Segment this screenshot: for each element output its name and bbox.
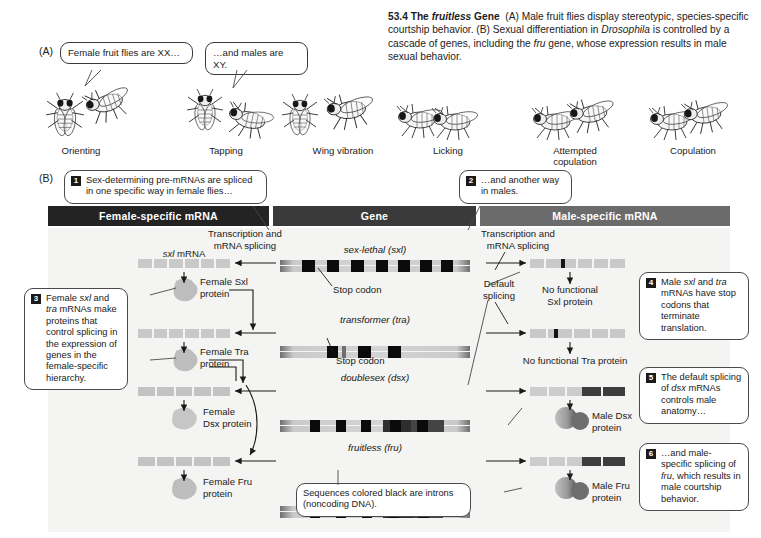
label-male-dsx-protein-l1: Male Dsx bbox=[592, 410, 632, 421]
bubble-male-xy-text: …and males are XY. bbox=[213, 47, 283, 70]
label-no-functional-sxl-l1: No functional bbox=[542, 284, 598, 295]
callout-3-text: Female sxl and tra mRNAs make proteins t… bbox=[46, 293, 121, 384]
protein-female-tra bbox=[174, 348, 198, 371]
label-female-tra-protein-l2: protein bbox=[200, 358, 229, 369]
label-male-dsx-protein-l2: protein bbox=[592, 422, 621, 433]
mrna-female-sxl bbox=[138, 259, 230, 268]
panel-a-letter: (A) bbox=[39, 45, 53, 57]
label-sxl-mrna-italic: sxl bbox=[163, 248, 175, 259]
header-bar-gene: Gene bbox=[273, 206, 476, 226]
label-transcription-right: Transcription andmRNA splicing bbox=[472, 228, 564, 251]
callout-3-number: 3 bbox=[31, 294, 41, 304]
mrna-female-fru bbox=[138, 457, 230, 466]
label-female-sxl-protein: Female Sxl protein bbox=[200, 276, 248, 299]
label-female-fru-protein-l1: Female Fru bbox=[203, 476, 252, 487]
protein-male-fru bbox=[555, 477, 589, 500]
figure-title-plain: The bbox=[411, 11, 432, 22]
callout-introns-note-text: Sequences colored black are introns (non… bbox=[303, 488, 453, 509]
callout-5-number: 5 bbox=[646, 373, 656, 383]
behavior-label-orienting: Orienting bbox=[35, 145, 127, 157]
callout-4-mid: and bbox=[695, 277, 716, 287]
callout-1: 1 Sex-determining pre-mRNAs are spliced … bbox=[64, 170, 267, 204]
label-female-fru-protein: Female Fru protein bbox=[203, 476, 252, 499]
label-female-fru-protein-l2: protein bbox=[203, 488, 232, 499]
protein-female-sxl bbox=[174, 278, 198, 301]
callout-6-post: , which results in male courtship behavi… bbox=[661, 471, 741, 504]
label-no-functional-tra: No functional Tra protein bbox=[490, 355, 660, 367]
label-female-sxl-protein-l2: protein bbox=[200, 288, 229, 299]
callout-3-post: mRNAs make proteins that control splicin… bbox=[46, 304, 117, 382]
mrna-male-fru bbox=[530, 457, 625, 466]
header-bar-male-label: Male-specific mRNA bbox=[552, 210, 657, 222]
behavior-label-wing-vibration: Wing vibration bbox=[288, 145, 398, 157]
behavior-label-attempted-2: copulation bbox=[520, 156, 630, 168]
mrna-male-tra bbox=[530, 329, 625, 338]
mrna-male-sxl bbox=[530, 259, 625, 268]
header-bar-female-label: Female-specific mRNA bbox=[99, 210, 218, 222]
mrna-female-dsx bbox=[138, 387, 230, 396]
figure-number: 53.4 bbox=[388, 11, 408, 22]
caption-part-b1: (B) Sexual differentiation in bbox=[476, 24, 601, 35]
label-female-sxl-protein-l1: Female Sxl bbox=[200, 276, 248, 287]
callout-6-it1: fru bbox=[661, 471, 672, 481]
panel-b-letter: (B) bbox=[39, 172, 53, 184]
mrna-male-dsx bbox=[530, 387, 625, 396]
label-male-fru-protein-l2: protein bbox=[592, 492, 621, 503]
callout-introns-note: Sequences colored black are introns (non… bbox=[296, 483, 471, 517]
callout-3-pre: Female bbox=[46, 293, 80, 303]
figure-caption: 53.4 The fruitless Gene (A) Male fruit f… bbox=[388, 10, 756, 64]
callout-1-number: 1 bbox=[71, 176, 81, 186]
callout-3-it1: sxl bbox=[80, 293, 91, 303]
callout-3-it2: tra bbox=[46, 304, 57, 314]
caption-italic-fru: fru bbox=[534, 38, 546, 49]
figure-title-italic: fruitless bbox=[432, 11, 472, 22]
label-female-tra-protein: Female Tra protein bbox=[200, 346, 249, 369]
gene-bar-sxl bbox=[280, 258, 470, 274]
label-stop-codon-sxl: Stop codon bbox=[333, 284, 382, 296]
header-bar-male: Male-specific mRNA bbox=[480, 206, 730, 226]
gene-name-tra: transformer (tra) bbox=[300, 314, 450, 325]
callout-2-number: 2 bbox=[466, 176, 476, 186]
callout-3-mid: and bbox=[91, 293, 109, 303]
callout-4-it1: sxl bbox=[684, 277, 695, 287]
figure-title-tail: Gene bbox=[471, 11, 499, 22]
callout-1-text: Sex-determining pre-mRNAs are spliced in… bbox=[86, 175, 260, 198]
callout-2: 2 …and another way in males. bbox=[459, 170, 572, 204]
behavior-label-attempted: Attempted bbox=[520, 145, 630, 157]
gene-name-fru: fruitless (fru) bbox=[300, 442, 450, 453]
label-transcription-left: Transcription andmRNA splicing bbox=[199, 228, 291, 251]
callout-6-number: 6 bbox=[646, 449, 656, 459]
callout-6: 6 …and male-specific splicing of fru, wh… bbox=[639, 443, 749, 511]
label-no-functional-sxl-l2: Sxl protein bbox=[547, 296, 592, 307]
label-male-fru-protein: Male Fru protein bbox=[592, 480, 630, 503]
bubble-male-xy: …and males are XY. bbox=[205, 42, 308, 75]
bubble-female-xx: Female fruit flies are XX… bbox=[60, 42, 193, 64]
gene-name-dsx: doublesex (dsx) bbox=[300, 372, 450, 383]
callout-6-text: …and male-specific splicing of fru, whic… bbox=[661, 448, 742, 505]
callout-6-pre: …and male-specific splicing of bbox=[661, 448, 736, 469]
behavior-label-licking: Licking bbox=[398, 145, 498, 157]
behavior-label-tapping: Tapping bbox=[180, 145, 272, 157]
callout-4-text: Male sxl and tra mRNAs have stop codons … bbox=[661, 277, 742, 334]
callout-4-pre: Male bbox=[661, 277, 684, 287]
header-bar-female: Female-specific mRNA bbox=[48, 206, 269, 226]
label-female-tra-protein-l1: Female Tra bbox=[200, 346, 249, 357]
gene-bar-dsx bbox=[280, 418, 470, 434]
header-bar-gene-label: Gene bbox=[361, 210, 388, 222]
label-female-dsx-protein-l2: Dsx protein bbox=[203, 418, 252, 429]
callout-4-it2: tra bbox=[716, 277, 727, 287]
label-male-fru-protein-l1: Male Fru bbox=[592, 480, 630, 491]
behavior-label-copulation: Copulation bbox=[638, 145, 748, 157]
callout-5: 5 The default splicing of dsx mRNAs cont… bbox=[639, 367, 749, 424]
protein-female-fru bbox=[172, 478, 197, 500]
protein-male-dsx bbox=[555, 407, 589, 430]
label-female-dsx-protein: Female Dsx protein bbox=[203, 406, 252, 429]
protein-female-dsx bbox=[172, 408, 197, 430]
callout-4-post: mRNAs have stop codons that terminate tr… bbox=[661, 288, 736, 332]
caption-italic-drosophila: Drosophila bbox=[601, 24, 650, 35]
callout-5-it1: dsx bbox=[671, 383, 685, 393]
callout-5-text: The default splicing of dsx mRNAs contro… bbox=[661, 372, 742, 418]
bubble-female-xx-text: Female fruit flies are XX… bbox=[68, 47, 180, 58]
mrna-female-tra bbox=[138, 329, 230, 338]
label-male-dsx-protein: Male Dsx protein bbox=[592, 410, 632, 433]
